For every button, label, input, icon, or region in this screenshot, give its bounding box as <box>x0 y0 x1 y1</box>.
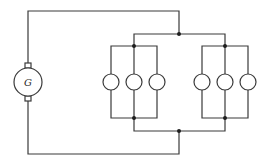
lamp-icon <box>194 74 210 90</box>
lamp-icon <box>103 74 119 90</box>
generator-top-terminal <box>25 63 31 68</box>
left-lamp-bank <box>103 46 165 118</box>
generator-bottom-terminal <box>25 96 31 101</box>
junction-dot <box>223 116 227 120</box>
circuit-diagram: G <box>0 0 268 163</box>
right-lamp-bank <box>194 46 256 118</box>
generator-label: G <box>24 77 32 88</box>
junction-dot <box>177 129 181 133</box>
lamp-icon <box>149 74 165 90</box>
bottom-supply-wire <box>28 98 179 154</box>
top-supply-wire <box>28 11 179 66</box>
lamp-icon <box>217 74 233 90</box>
junction-dot <box>132 116 136 120</box>
junction-dot <box>177 32 181 36</box>
generator: G <box>14 63 42 101</box>
junction-dot <box>132 44 136 48</box>
lamp-icon <box>126 74 142 90</box>
lamp-icon <box>240 74 256 90</box>
junction-dot <box>223 44 227 48</box>
bottom-bus <box>134 118 225 131</box>
